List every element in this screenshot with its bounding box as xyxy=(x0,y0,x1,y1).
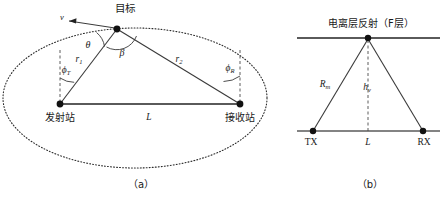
iso-range-ellipse xyxy=(3,28,267,168)
receiver-node xyxy=(237,101,244,108)
baseline-label-b: L xyxy=(364,137,370,147)
caption-a: （a） xyxy=(128,179,154,190)
figure-container: v 目标 θ β r1 r2 ϕT ϕR L 发射站 接收站 （a） xyxy=(0,0,447,202)
phi-tx-label: ϕT xyxy=(62,65,71,76)
angle-theta-label: θ xyxy=(86,39,91,50)
reflection-point-node xyxy=(365,35,371,41)
bistatic-radar-figure: v 目标 θ β r1 r2 ϕT ϕR L 发射站 接收站 （a） xyxy=(0,0,447,202)
range-r1-label: r1 xyxy=(76,54,83,65)
phi-rx-label: ϕR xyxy=(226,63,235,74)
rx-node-b xyxy=(420,128,426,134)
receiver-station-label: 接收站 xyxy=(225,111,255,123)
target-label: 目标 xyxy=(115,2,136,14)
velocity-label: v xyxy=(60,12,64,22)
slant-path-downlink-line xyxy=(368,39,423,131)
baseline-label-a: L xyxy=(145,112,151,122)
angle-arc-phi-rx xyxy=(224,76,241,82)
angle-arc-phi-tx xyxy=(60,78,74,82)
panel-b: 电离层反射（F层） Rm hv L TX RX （b） xyxy=(297,17,440,190)
transmitter-node xyxy=(57,101,64,108)
panel-a: v 目标 θ β r1 r2 ϕT ϕR L 发射站 接收站 （a） xyxy=(3,2,267,190)
angle-arc-theta xyxy=(97,33,105,47)
rx-station-label-b: RX xyxy=(417,137,430,147)
velocity-arrowhead-icon xyxy=(69,18,77,23)
target-node xyxy=(114,26,121,33)
range-r2-label: r2 xyxy=(176,54,184,65)
virtual-height-label: hv xyxy=(363,82,371,93)
slant-range-label: Rm xyxy=(319,79,331,90)
transmitter-station-label: 发射站 xyxy=(45,111,75,123)
angle-beta-label: β xyxy=(119,47,125,58)
ionosphere-label: 电离层反射（F层） xyxy=(328,17,414,29)
caption-b: （b） xyxy=(357,179,383,190)
tx-node-b xyxy=(310,128,316,134)
range-line-r2 xyxy=(117,29,240,104)
tx-station-label-b: TX xyxy=(305,137,318,147)
